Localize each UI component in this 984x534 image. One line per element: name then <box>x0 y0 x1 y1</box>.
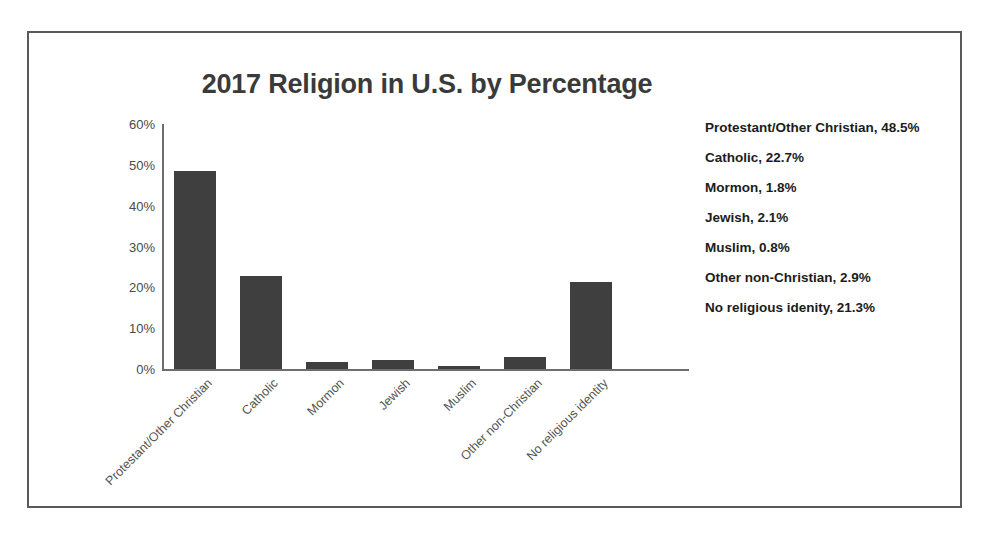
x-axis-tick-label: Muslim <box>441 376 479 414</box>
x-axis-tick-label: Protestant/Other Christian <box>103 376 215 488</box>
legend-value-list: Protestant/Other Christian, 48.5%Catholi… <box>705 113 975 323</box>
x-axis-line <box>162 369 689 371</box>
legend-entry: Jewish, 2.1% <box>705 203 975 233</box>
bar-chart-plot-area: 60%50%40%30%20%10%0% Protestant/Other Ch… <box>162 124 689 369</box>
y-axis-tick-label: 40% <box>129 198 155 213</box>
x-axis-tick-label: Jewish <box>376 376 413 413</box>
legend-entry: Muslim, 0.8% <box>705 233 975 263</box>
bar <box>372 360 414 369</box>
bar <box>240 276 282 369</box>
x-axis-tick-label: Mormon <box>305 376 347 418</box>
y-axis-tick-label: 50% <box>129 157 155 172</box>
y-axis-tick-label: 60% <box>129 117 155 132</box>
y-axis-line <box>162 124 164 369</box>
x-axis-tick-label: Catholic <box>239 376 281 418</box>
chart-title: 2017 Religion in U.S. by Percentage <box>147 69 707 100</box>
y-axis-tick-label: 20% <box>129 280 155 295</box>
legend-entry: Mormon, 1.8% <box>705 173 975 203</box>
legend-entry: Catholic, 22.7% <box>705 143 975 173</box>
legend-entry: Protestant/Other Christian, 48.5% <box>705 113 975 143</box>
bar <box>438 366 480 369</box>
y-axis-tick-label: 0% <box>136 362 155 377</box>
bar <box>174 171 216 369</box>
bar <box>570 282 612 369</box>
legend-entry: Other non-Christian, 2.9% <box>705 263 975 293</box>
legend-entry: No religious idenity, 21.3% <box>705 293 975 323</box>
y-axis-tick-label: 10% <box>129 321 155 336</box>
y-axis-tick-label: 30% <box>129 239 155 254</box>
document-page-frame: 2017 Religion in U.S. by Percentage 60%5… <box>27 31 962 508</box>
bar <box>306 362 348 369</box>
bar <box>504 357 546 369</box>
